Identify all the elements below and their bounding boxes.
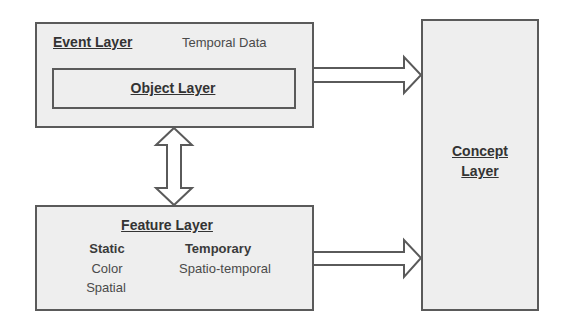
feature-layer-title: Feature Layer: [121, 218, 213, 232]
temporal-data-label: Temporal Data: [182, 36, 267, 49]
object-layer-title: Object Layer: [131, 81, 216, 95]
event-layer-title: Event Layer: [53, 35, 132, 49]
temporary-item-spatio-temporal: Spatio-temporal: [179, 262, 271, 275]
static-item-color: Color: [91, 262, 122, 275]
static-item-spatial: Spatial: [86, 281, 126, 294]
arrow-event-feature-bidirectional: [156, 128, 192, 205]
static-heading: Static: [89, 242, 124, 255]
arrow-event-to-concept: [313, 57, 421, 93]
temporary-heading: Temporary: [185, 242, 251, 255]
concept-layer-title-line2: Layer: [461, 164, 498, 178]
concept-layer-title-line1: Concept: [452, 144, 508, 158]
arrow-feature-to-concept: [313, 240, 421, 277]
